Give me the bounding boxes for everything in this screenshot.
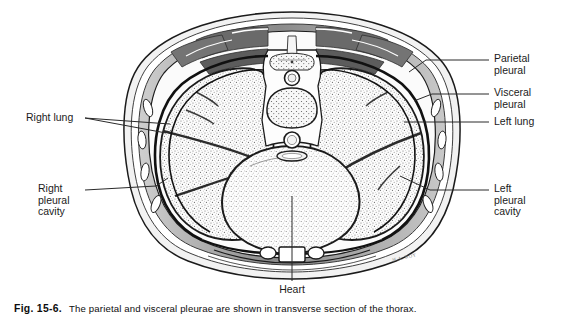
label-right-lung: Right lung — [26, 112, 73, 124]
label-right-pleural-cavity: Right pleural cavity — [38, 183, 70, 218]
anatomical-figure: Parietal pleural Visceral pleural Left l… — [0, 0, 574, 327]
label-heart: Heart — [268, 284, 316, 296]
label-left-pleural-cavity: Left pleural cavity — [494, 183, 526, 218]
thorax-cross-section-illustration — [0, 0, 574, 327]
figure-caption: Fig. 15-6.The parietal and visceral pleu… — [14, 303, 560, 314]
label-visceral-pleural: Visceral pleural — [494, 87, 531, 110]
mediastinum — [262, 36, 322, 161]
figure-number: Fig. 15-6. — [14, 303, 62, 314]
label-parietal-pleural: Parietal pleural — [494, 53, 530, 76]
label-left-lung: Left lung — [494, 116, 534, 128]
caption-text: The parietal and visceral pleurae are sh… — [69, 303, 416, 314]
heart — [222, 146, 359, 254]
